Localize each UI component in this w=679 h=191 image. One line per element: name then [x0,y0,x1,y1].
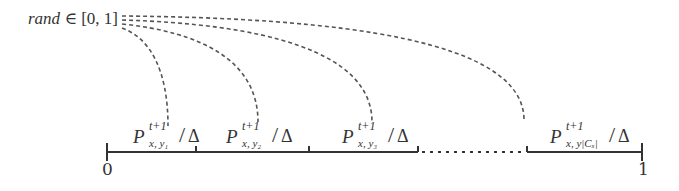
subscript: x, y₁ [149,137,168,149]
prob-symbol: P [342,126,354,148]
fraction-slash: / [609,122,615,148]
subscript: x, y₂ [242,137,261,149]
rand-range: ∈ [0, 1] [60,9,118,28]
delta-symbol: Δ [188,126,200,147]
subscript: x, y|Cₓ| [566,137,598,149]
rand-var: rand [28,9,60,28]
segment-label-1: P t+1 x, y₁ / Δ [133,116,213,150]
dashed-curve-1 [122,28,168,126]
dashed-curve-2 [122,24,258,122]
subscript: x, y₃ [358,137,377,149]
rand-label: rand ∈ [0, 1] [28,8,118,29]
superscript: t+1 [358,119,375,134]
superscript: t+1 [242,119,259,134]
prob-symbol: P [550,126,562,148]
axis-start-label: 0 [102,159,113,179]
segment-label-3: P t+1 x, y₃ / Δ [342,116,422,150]
dashed-curve-4 [122,16,524,120]
prob-symbol: P [226,126,238,148]
superscript: t+1 [566,119,583,134]
delta-symbol: Δ [397,126,409,147]
fraction-slash: / [388,122,394,148]
segment-label-2: P t+1 x, y₂ / Δ [226,116,306,150]
axis-end-label: 1 [638,159,649,179]
prob-symbol: P [133,126,145,148]
delta-symbol: Δ [281,126,293,147]
delta-symbol: Δ [618,126,630,147]
fraction-slash: / [272,122,278,148]
superscript: t+1 [149,119,166,134]
fraction-slash: / [179,122,185,148]
segment-label-4: P t+1 x, y|Cₓ| / Δ [550,116,640,150]
